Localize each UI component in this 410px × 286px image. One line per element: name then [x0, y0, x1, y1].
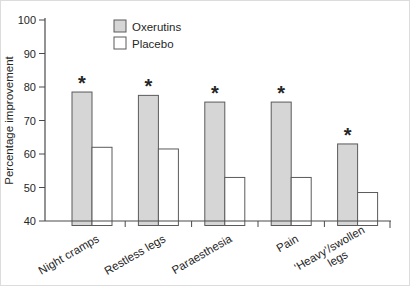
- y-tick-label: 90: [24, 48, 36, 60]
- category-label-4: ‘Heavy’/swollenlegs: [292, 223, 373, 284]
- bar-oxerutins-0: [72, 92, 92, 225]
- chart-canvas: *****405060708090100Night crampsRestless…: [0, 0, 410, 286]
- significance-asterisk: *: [344, 124, 352, 146]
- significance-asterisk: *: [78, 72, 86, 94]
- significance-asterisk: *: [277, 82, 285, 104]
- y-tick-label: 80: [24, 81, 36, 93]
- legend-label-oxerutins: Oxerutins: [132, 21, 181, 33]
- category-label-1: Restless legs: [102, 232, 167, 277]
- category-label-0: Night cramps: [36, 232, 101, 276]
- y-tick-label: 60: [24, 148, 36, 160]
- significance-asterisk: *: [211, 82, 219, 104]
- bar-placebo-0: [92, 147, 112, 225]
- bar-placebo-1: [158, 149, 178, 226]
- bar-placebo-3: [291, 177, 311, 225]
- bar-oxerutins-3: [271, 102, 291, 225]
- y-tick-label: 50: [24, 182, 36, 194]
- bar-placebo-2: [225, 177, 245, 225]
- bar-oxerutins-4: [338, 144, 358, 226]
- chart-svg: *****405060708090100Night crampsRestless…: [0, 0, 410, 286]
- legend-label-placebo: Placebo: [132, 38, 174, 50]
- bar-oxerutins-1: [138, 95, 158, 225]
- category-label-2: Paraesthesia: [170, 232, 235, 276]
- y-axis-title: Percentage improvement: [3, 55, 15, 184]
- legend-swatch-oxerutins: [114, 20, 126, 32]
- category-label-3: Pain: [274, 232, 300, 254]
- bar-chart-figure: *****405060708090100Night crampsRestless…: [0, 0, 410, 286]
- significance-asterisk: *: [145, 75, 153, 97]
- y-tick-label: 100: [18, 14, 36, 26]
- y-tick-label: 40: [24, 215, 36, 227]
- legend-swatch-placebo: [114, 37, 126, 49]
- bar-oxerutins-2: [205, 102, 225, 225]
- y-tick-label: 70: [24, 115, 36, 127]
